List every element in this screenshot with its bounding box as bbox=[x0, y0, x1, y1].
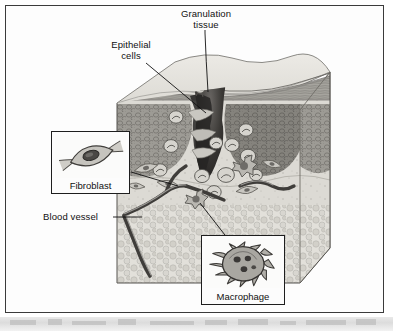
fibroblast-art bbox=[52, 132, 129, 180]
figure-root: Granulation tissue Epithelial cells Bloo… bbox=[0, 0, 393, 331]
inset-caption-fibroblast: Fibroblast bbox=[52, 180, 129, 191]
inset-macrophage: Macrophage bbox=[201, 235, 285, 305]
label-epithelial-cells: Epithelial cells bbox=[95, 39, 167, 61]
inset-caption-macrophage: Macrophage bbox=[202, 291, 284, 302]
scan-artifact-band bbox=[0, 317, 393, 331]
macrophage-art bbox=[202, 236, 284, 291]
label-granulation-tissue: Granulation tissue bbox=[164, 8, 248, 30]
inset-fibroblast: Fibroblast bbox=[51, 131, 130, 194]
label-blood-vessel: Blood vessel bbox=[43, 211, 115, 222]
